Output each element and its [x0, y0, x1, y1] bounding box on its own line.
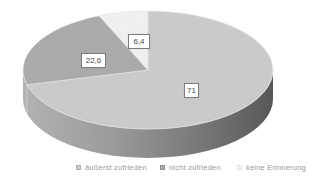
legend-item-no-memory: keine Erinnerung [237, 163, 306, 172]
legend-marker-extremely-satisfied-icon [76, 165, 81, 170]
data-label-extremely-satisfied: 71 [184, 83, 199, 98]
grain-texture [10, 3, 300, 165]
legend-marker-no-memory-icon [237, 165, 242, 170]
legend-item-extremely-satisfied: äußerst zufrieden [76, 163, 147, 172]
pie-chart-figure: 6,4 22,6 71 äußerst zufrieden nicht zufr… [0, 0, 313, 184]
pie-3d-graphic [0, 0, 313, 184]
legend-item-not-satisfied: nicht zufrieden [160, 163, 221, 172]
legend-label-extremely-satisfied: äußerst zufrieden [85, 163, 147, 172]
legend-marker-not-satisfied-icon [160, 165, 165, 170]
data-label-no-memory: 6,4 [128, 34, 150, 49]
data-label-not-satisfied: 22,6 [81, 53, 106, 68]
legend-label-not-satisfied: nicht zufrieden [169, 163, 221, 172]
legend-label-no-memory: keine Erinnerung [246, 163, 306, 172]
